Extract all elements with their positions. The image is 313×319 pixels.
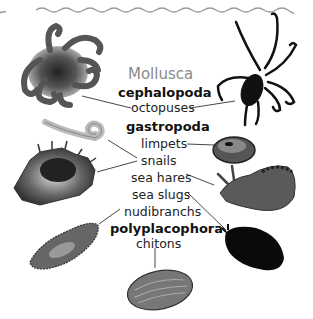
sea-hare-illustration bbox=[218, 166, 295, 211]
member-label-sea-slugs: sea slugs bbox=[132, 189, 190, 202]
member-label-snails: snails bbox=[141, 155, 177, 168]
chiton-illustration bbox=[124, 265, 196, 316]
member-label-octopuses: octopuses bbox=[131, 102, 195, 115]
octopus-left-illustration bbox=[24, 26, 100, 105]
member-label-limpets: limpets bbox=[141, 138, 187, 151]
worm-snail-illustration bbox=[45, 122, 102, 138]
group-label-cephalopoda: cephalopoda bbox=[118, 86, 212, 99]
group-label-polyplacophora: polyplacophora bbox=[110, 222, 223, 235]
sea-slug-illustration bbox=[222, 224, 284, 270]
murex-snail-illustration bbox=[14, 141, 96, 205]
member-label-sea-hares: sea hares bbox=[131, 172, 192, 185]
member-label-chitons: chitons bbox=[136, 238, 181, 251]
nudibranch-illustration bbox=[30, 223, 98, 269]
diagram-title: Mollusca bbox=[128, 67, 193, 82]
member-label-nudibranchs: nudibranchs bbox=[124, 206, 201, 219]
limpet-illustration bbox=[213, 137, 255, 163]
group-label-gastropoda: gastropoda bbox=[126, 120, 210, 133]
octopus-right-illustration bbox=[218, 14, 296, 126]
